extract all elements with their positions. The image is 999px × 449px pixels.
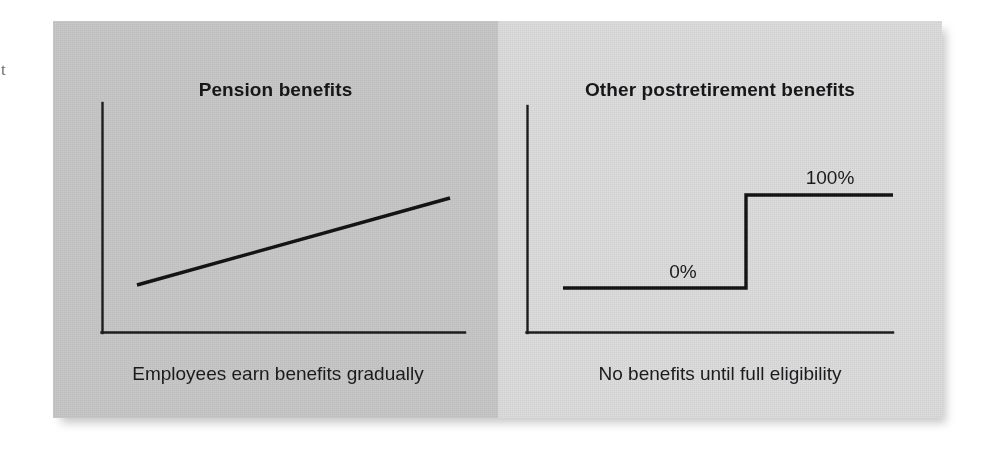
figure-container: Pension benefits Other postretirement be…	[53, 21, 942, 418]
chart-caption-pension: Employees earn benefits gradually	[53, 363, 503, 385]
page-margin-text-fragment: t	[1, 58, 17, 82]
data-label-hundred-percent: 100%	[775, 167, 885, 189]
chart-title-pension: Pension benefits	[53, 79, 498, 101]
eligibility-step-line	[563, 195, 893, 288]
data-label-zero-percent: 0%	[638, 261, 728, 283]
chart-caption-other-postretirement: No benefits until full eligibility	[498, 363, 942, 385]
chart-title-other-postretirement: Other postretirement benefits	[498, 79, 942, 101]
